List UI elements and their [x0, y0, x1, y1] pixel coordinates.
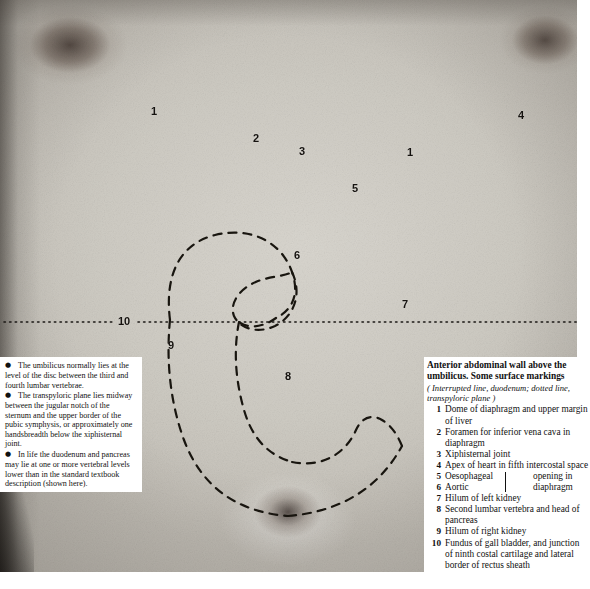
key-item: 9 Hilum of right kidney — [427, 526, 588, 537]
photo-label-9: 9 — [168, 340, 174, 351]
note-text-1: The umbilicus normally lies at the level… — [5, 361, 129, 390]
key-number: 7 — [427, 493, 441, 504]
key-item: 7 Hilum of left kidney — [427, 493, 588, 504]
photo-label-1-left: 1 — [151, 106, 157, 117]
key-number: 2 — [427, 427, 441, 438]
photo-label-1-right: 1 — [407, 147, 413, 158]
key-text: Hilum of left kidney — [445, 493, 588, 504]
photo-label-10: 10 — [118, 316, 130, 327]
photo-label-3: 3 — [299, 146, 305, 157]
bullet-glyph: ● — [5, 450, 11, 458]
photo-label-2: 2 — [253, 133, 259, 144]
key-text: Foramen for inferior vena cava in diaphr… — [445, 427, 588, 449]
key-text: Xiphisternal joint — [445, 449, 588, 460]
notes-panel: ●The umbilicus normally lies at the leve… — [0, 357, 142, 492]
caption-panel: Anterior abdominal wall above the umbili… — [424, 357, 590, 589]
note-bullet-3: ●In life the duodenum and pancreas may l… — [5, 450, 137, 489]
note-bullet-1: ●The umbilicus normally lies at the leve… — [5, 361, 137, 390]
key-text: Apex of heart in fifth intercostal space — [445, 460, 588, 471]
key-number: 5 — [427, 471, 441, 482]
key-text: Aortic — [445, 482, 507, 493]
key-number: 3 — [427, 449, 441, 460]
key-number: 9 — [427, 526, 441, 537]
key-number: 1 — [427, 404, 441, 415]
brace-shared-text-2: diaphragm — [507, 482, 573, 493]
key-text: Oesophageal — [445, 471, 507, 482]
key-item: 3 Xiphisternal joint — [427, 449, 588, 460]
key-number: 10 — [427, 538, 441, 549]
photo-label-8: 8 — [285, 371, 291, 382]
caption-subtitle: ( Interrupted line, duodenum; dotted lin… — [427, 383, 588, 403]
caption-key-list: 1 Dome of diaphragm and upper margin of … — [427, 404, 588, 570]
caption-title: Anterior abdominal wall above the umbili… — [427, 360, 588, 382]
key-item: 8 Second lumbar vertebra and head of pan… — [427, 504, 588, 526]
key-item: 1 Dome of diaphragm and upper margin of … — [427, 404, 588, 426]
key-number: 6 — [427, 482, 441, 493]
key-number: 8 — [427, 504, 441, 515]
photo-label-5: 5 — [352, 183, 358, 194]
brace-shared-text-1: opening in — [507, 471, 573, 482]
note-text-3: In life the duodenum and pancreas may li… — [5, 450, 130, 488]
bullet-glyph: ● — [5, 361, 11, 369]
key-text: Fundus of gall bladder, and junction of … — [445, 538, 588, 571]
key-text: Second lumbar vertebra and head of pancr… — [445, 504, 588, 526]
photo-label-6: 6 — [294, 250, 300, 261]
key-item: 10 Fundus of gall bladder, and junction … — [427, 538, 588, 571]
bullet-glyph: ● — [5, 391, 11, 399]
key-item: 5 Oesophageal opening in — [427, 471, 588, 482]
key-item: 4 Apex of heart in fifth intercostal spa… — [427, 460, 588, 471]
brace-line — [505, 472, 506, 492]
photo-label-4: 4 — [518, 110, 524, 121]
note-text-2: The transpyloric plane lies midway betwe… — [5, 391, 132, 448]
photo-label-7: 7 — [402, 299, 408, 310]
key-number: 4 — [427, 460, 441, 471]
note-bullet-2: ●The transpyloric plane lies midway betw… — [5, 391, 137, 449]
key-item-braced-pair: 5 Oesophageal opening in 6 Aortic diaphr… — [427, 471, 588, 493]
key-item: 6 Aortic diaphragm — [427, 482, 588, 493]
key-text: Hilum of right kidney — [445, 526, 588, 537]
key-text: Dome of diaphragm and upper margin of li… — [445, 404, 588, 426]
key-item: 2 Foramen for inferior vena cava in diap… — [427, 427, 588, 449]
